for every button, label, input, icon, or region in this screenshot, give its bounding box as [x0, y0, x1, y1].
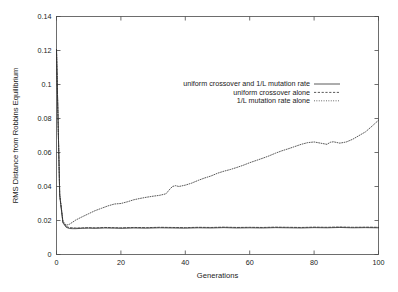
y-tick-label: 0.02: [38, 216, 52, 225]
series-line-0: [57, 50, 379, 229]
x-tick-label: 20: [117, 258, 125, 267]
chart-canvas: 00.020.040.060.080.10.120.14020406080100…: [0, 0, 398, 292]
y-tick-label: 0.12: [38, 46, 52, 55]
y-tick-label: 0.04: [38, 182, 52, 191]
x-tick-label: 60: [246, 258, 254, 267]
legend-label-2: 1/L mutation rate alone: [237, 96, 310, 105]
series-line-1: [57, 50, 379, 228]
x-tick-label: 0: [55, 258, 59, 267]
y-tick-label: 0.1: [42, 80, 52, 89]
y-axis-title: RMS Distance from Robbins Equilibrium: [11, 68, 20, 203]
y-tick-label: 0.06: [38, 148, 52, 157]
y-tick-label: 0: [48, 250, 52, 259]
chart-figure: 00.020.040.060.080.10.120.14020406080100…: [0, 0, 398, 292]
y-tick-label: 0.08: [38, 114, 52, 123]
plot-frame: [57, 17, 379, 255]
x-tick-label: 40: [181, 258, 189, 267]
x-tick-label: 80: [310, 258, 318, 267]
series-line-2: [57, 50, 379, 226]
x-tick-label: 100: [373, 258, 385, 267]
x-axis-title: Generations: [197, 271, 239, 280]
y-tick-label: 0.14: [38, 12, 52, 21]
